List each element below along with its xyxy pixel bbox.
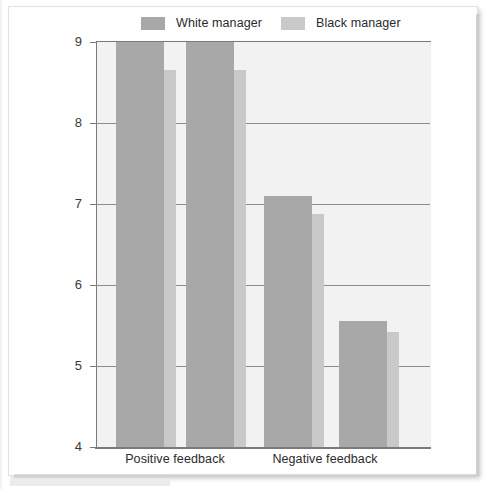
y-tick-mark	[90, 366, 96, 367]
bar-black-manager	[234, 70, 246, 447]
y-tick-label: 8	[56, 115, 82, 130]
bar-white-manager	[264, 196, 312, 447]
legend-item-white-manager: White manager	[141, 14, 262, 32]
y-tick-mark	[90, 204, 96, 205]
bar-white-manager	[186, 42, 234, 447]
legend-item-black-manager: Black manager	[281, 14, 401, 32]
x-axis-line	[95, 447, 431, 449]
page-bottom-strip	[10, 479, 170, 486]
y-tick-mark	[90, 447, 96, 448]
y-tick-label: 4	[56, 439, 82, 454]
x-tick-label: Negative feedback	[255, 452, 395, 466]
y-tick-mark	[90, 42, 96, 43]
y-tick-label: 6	[56, 277, 82, 292]
legend-label-black-manager: Black manager	[316, 16, 401, 30]
y-tick-mark	[90, 285, 96, 286]
y-tick-label: 5	[56, 358, 82, 373]
scanned-page: White manager Black manager Skill rating…	[0, 0, 488, 489]
chart-legend: White manager Black manager	[96, 14, 426, 34]
legend-swatch-black-manager	[281, 17, 305, 30]
bar-black-manager	[312, 214, 324, 447]
bar-black-manager	[387, 332, 399, 447]
x-tick-label: Positive feedback	[105, 452, 245, 466]
bar-white-manager	[339, 321, 387, 447]
bar-black-manager	[164, 70, 176, 447]
page-shadow-right	[476, 14, 481, 476]
y-tick-mark	[90, 123, 96, 124]
y-tick-label: 7	[56, 196, 82, 211]
y-tick-label: 9	[56, 34, 82, 49]
legend-label-white-manager: White manager	[176, 16, 262, 30]
page-left-edge	[0, 0, 3, 489]
bar-white-manager	[116, 42, 164, 447]
legend-swatch-white-manager	[141, 17, 165, 30]
